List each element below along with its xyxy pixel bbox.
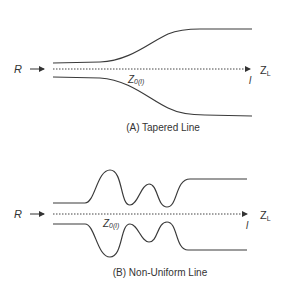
impedance-label-b: Z0(l) [102, 218, 119, 230]
length-label-a: l [249, 75, 252, 86]
caption-a: (A) Tapered Line [126, 122, 200, 133]
panel-a-tapered-line: R Z0(l) ZL l (A) Tapered Line [14, 29, 271, 133]
transmission-line-diagram: R Z0(l) ZL l (A) Tapered Line R Z0(l) ZL… [0, 0, 293, 286]
upper-conductor [53, 29, 252, 63]
load-label-b: ZL [260, 209, 271, 222]
load-label-a: ZL [260, 64, 271, 77]
length-label-b: l [246, 220, 249, 231]
upper-conductor [53, 170, 247, 207]
source-label-a: R [14, 63, 22, 75]
source-label-b: R [14, 208, 22, 220]
panel-b-non-uniform-line: R Z0(l) ZL l (B) Non-Uniform Line [14, 170, 271, 278]
impedance-label-a: Z0(l) [127, 74, 144, 86]
lower-conductor [53, 222, 247, 257]
lower-conductor [53, 77, 252, 116]
caption-b: (B) Non-Uniform Line [113, 267, 208, 278]
